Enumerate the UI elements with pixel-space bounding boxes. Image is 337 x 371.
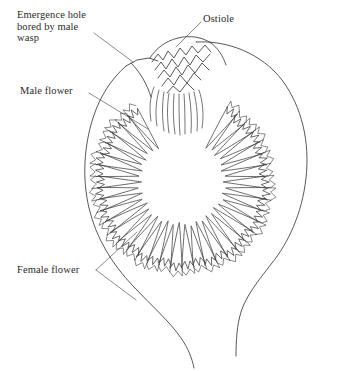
floret	[212, 116, 244, 150]
floret	[97, 176, 142, 188]
floret	[148, 221, 169, 265]
label-emergence-hole: Emergence hole bored by male wasp	[17, 9, 86, 44]
leader-emergence-hole	[94, 33, 133, 62]
floret-fringe	[206, 261, 220, 272]
fig-outer-wall	[85, 42, 307, 368]
leader-female-flower-upper	[96, 232, 137, 270]
fig-diagram: Emergence hole bored by male wasp Ostiol…	[0, 0, 337, 371]
leader-lines	[89, 22, 201, 300]
floret	[110, 122, 147, 154]
floret	[106, 132, 147, 160]
ostiole-bracts	[150, 37, 226, 93]
leader-ostiole	[176, 22, 201, 47]
label-male-flower: Male flower	[20, 85, 73, 97]
floret	[223, 200, 263, 222]
floret-fringe	[93, 199, 103, 212]
floret	[215, 123, 253, 156]
floret	[120, 116, 153, 151]
ostiole-fibers	[150, 87, 203, 135]
floret	[223, 176, 269, 188]
emergence-hole	[126, 58, 158, 97]
floret	[136, 221, 162, 262]
label-ostiole: Ostiole	[203, 13, 234, 25]
floret	[222, 193, 264, 210]
floret	[213, 208, 251, 240]
leader-female-flower-lower	[96, 270, 136, 300]
floret	[218, 204, 260, 233]
fig-illustration	[0, 0, 337, 371]
floret	[196, 222, 217, 266]
floret	[212, 214, 246, 249]
floret-fringe	[264, 150, 274, 164]
label-female-flower: Female flower	[17, 264, 79, 276]
floret-fringe	[102, 222, 113, 235]
floret	[103, 143, 142, 164]
